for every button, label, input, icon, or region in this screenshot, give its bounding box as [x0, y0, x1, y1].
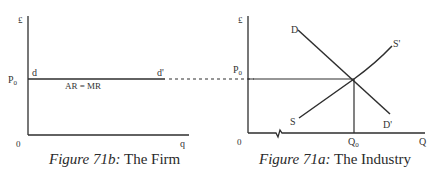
supply-end-label: S': [393, 38, 401, 49]
industry-diagram: £ P0 D D' S S' 0 Q0 Q: [233, 15, 427, 149]
firm-diagram: £ P0 d d' AR = MR 0 q: [8, 15, 254, 149]
firm-curve-label: AR = MR: [65, 81, 101, 91]
firm-curve-start-label: d: [32, 67, 37, 78]
firm-caption: Figure 71b: The Firm: [49, 151, 180, 168]
firm-caption-title: The Firm: [121, 151, 181, 167]
supply-curve: [299, 46, 392, 118]
diagram-canvas: £ P0 d d' AR = MR 0 q £ P0 D D' S S' 0 Q…: [0, 0, 438, 175]
supply-start-label: S: [290, 116, 296, 127]
firm-curve-end-label: d': [157, 67, 164, 78]
firm-price-label: P0: [8, 74, 18, 87]
industry-quantity-label: Q0: [348, 136, 359, 149]
industry-caption-number: Figure 71a:: [259, 151, 331, 167]
demand-curve: [298, 30, 390, 114]
demand-start-label: D: [291, 24, 298, 35]
firm-y-axis-label: £: [18, 15, 23, 25]
industry-caption: Figure 71a: The Industry: [259, 151, 411, 168]
industry-y-axis-label: £: [238, 15, 243, 25]
demand-end-label: D': [383, 119, 392, 130]
industry-caption-title: The Industry: [331, 151, 412, 167]
firm-x-axis-label: q: [180, 138, 185, 149]
industry-x-axis-with-break: [248, 130, 425, 137]
industry-price-label: P0: [233, 64, 243, 77]
firm-origin-label: 0: [16, 139, 21, 149]
industry-origin-label: 0: [237, 137, 242, 147]
firm-caption-number: Figure 71b:: [49, 151, 121, 167]
industry-x-axis-label: Q: [419, 136, 427, 147]
